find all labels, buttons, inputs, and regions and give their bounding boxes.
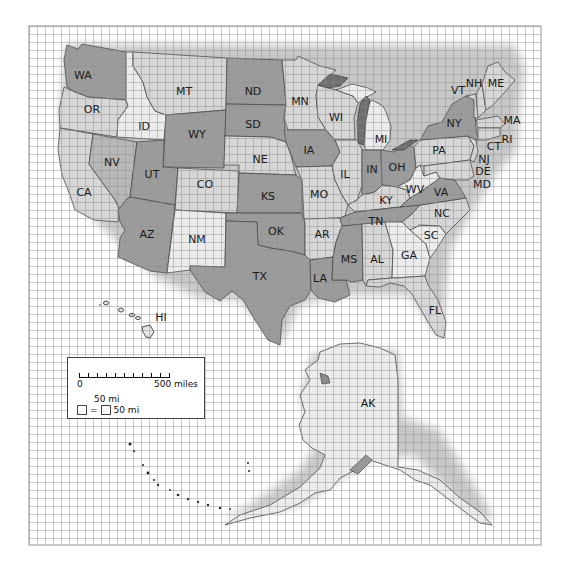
state-label-al: AL: [370, 253, 385, 266]
scale-tick: [115, 373, 116, 378]
state-label-ar: AR: [314, 228, 330, 241]
state-label-nd: ND: [245, 85, 262, 98]
cell-equivalence: = 50 mi: [77, 405, 139, 415]
scale-tick: [124, 373, 125, 378]
state-label-nm: NM: [188, 233, 206, 246]
state-label-mo: MO: [310, 188, 328, 201]
state-label-ia: IA: [304, 144, 315, 157]
state-label-az: AZ: [139, 228, 155, 241]
state-label-ct: CT: [487, 140, 502, 153]
state-label-vt: VT: [451, 84, 466, 97]
scale-end-label: 500 miles: [154, 379, 198, 389]
state-label-id: ID: [138, 120, 150, 133]
scale-tick: [88, 373, 89, 378]
scale-start-label: 0: [77, 379, 83, 389]
scale-tick: [97, 373, 98, 378]
state-label-wy: WY: [188, 128, 206, 141]
state-label-md: MD: [473, 178, 491, 191]
state-label-de: DE: [475, 165, 490, 178]
state-label-wa: WA: [74, 69, 92, 82]
state-label-in: IN: [366, 163, 377, 176]
state-label-oh: OH: [389, 161, 406, 174]
state-label-ut: UT: [145, 168, 160, 181]
state-label-va: VA: [434, 186, 449, 199]
grid-overlay: [29, 26, 541, 545]
state-label-ky: KY: [379, 194, 393, 207]
scale-bar: [79, 372, 169, 378]
state-label-wi: WI: [329, 111, 343, 124]
scale-tick: [169, 373, 170, 378]
state-label-sd: SD: [245, 118, 260, 131]
state-label-wv: WV: [406, 183, 425, 196]
state-label-la: LA: [313, 272, 327, 285]
scale-tick: [106, 373, 107, 378]
state-label-nh: NH: [466, 77, 483, 90]
state-label-nc: NC: [434, 207, 450, 220]
state-label-mn: MN: [291, 95, 309, 108]
state-label-ks: KS: [261, 190, 275, 203]
state-label-co: CO: [197, 178, 214, 191]
state-label-mi: MI: [375, 133, 388, 146]
equals-sign: =: [90, 405, 98, 415]
state-label-il: IL: [340, 168, 350, 181]
map-legend: 0 500 miles 50 mi = 50 mi: [67, 357, 205, 419]
state-label-ca: CA: [76, 186, 92, 199]
state-label-hi: HI: [155, 311, 167, 324]
state-label-ms: MS: [341, 253, 357, 266]
us-grid-map: WAORCANVIDMTWYUTCOAZNMNDSDNEKSOKTXMNIAMO…: [0, 0, 569, 577]
state-label-ak: AK: [361, 397, 377, 410]
state-label-sc: SC: [424, 229, 439, 242]
scale-tick: [160, 373, 161, 378]
cell-size-label: 50 mi: [94, 394, 120, 404]
grid-cell-square-icon: [77, 405, 87, 415]
state-label-pa: PA: [432, 144, 446, 157]
state-label-ga: GA: [401, 249, 418, 262]
state-label-ok: OK: [268, 225, 285, 238]
state-label-mt: MT: [176, 85, 192, 98]
cell-size-side-label: 50 mi: [114, 405, 140, 415]
scale-tick: [142, 373, 143, 378]
state-label-nv: NV: [104, 156, 120, 169]
state-label-me: ME: [488, 77, 504, 90]
state-label-ma: MA: [503, 114, 520, 127]
state-label-fl: FL: [429, 304, 442, 317]
scale-tick: [133, 373, 134, 378]
state-label-ne: NE: [252, 153, 267, 166]
scale-tick: [151, 373, 152, 378]
state-label-ny: NY: [447, 117, 462, 130]
state-label-or: OR: [84, 103, 101, 116]
state-label-tx: TX: [252, 270, 268, 283]
grid-cell-square-icon: [101, 405, 111, 415]
state-label-ri: RI: [502, 133, 513, 146]
state-label-tn: TN: [368, 215, 384, 228]
scale-tick: [79, 373, 80, 378]
